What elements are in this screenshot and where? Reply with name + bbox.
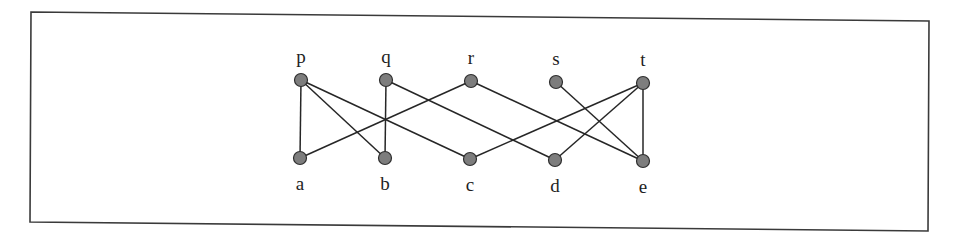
- node-c: [464, 153, 477, 166]
- node-label-b: b: [380, 173, 390, 194]
- node-q: [380, 74, 393, 87]
- node-a: [294, 152, 307, 165]
- node-label-d: d: [550, 175, 560, 196]
- node-d: [549, 154, 562, 167]
- node-label-t: t: [640, 49, 646, 70]
- node-label-p: p: [296, 46, 306, 67]
- edge-q-d: [386, 80, 555, 160]
- edge-t-c: [470, 83, 643, 159]
- node-label-s: s: [552, 48, 559, 69]
- node-r: [465, 75, 478, 88]
- node-s: [550, 76, 563, 89]
- node-b: [379, 152, 392, 165]
- node-label-q: q: [381, 46, 391, 67]
- edges-layer: [300, 80, 643, 161]
- node-p: [295, 74, 308, 87]
- graph-diagram: pqrstabcde: [0, 0, 962, 242]
- node-label-c: c: [466, 174, 474, 195]
- node-t: [637, 77, 650, 90]
- node-e: [637, 155, 650, 168]
- edge-p-a: [300, 80, 301, 158]
- node-label-a: a: [296, 173, 305, 194]
- node-label-r: r: [468, 47, 475, 68]
- labels-layer: pqrstabcde: [296, 46, 647, 197]
- diagram-frame: [30, 12, 929, 231]
- node-label-e: e: [639, 176, 647, 197]
- edge-p-b: [301, 80, 385, 158]
